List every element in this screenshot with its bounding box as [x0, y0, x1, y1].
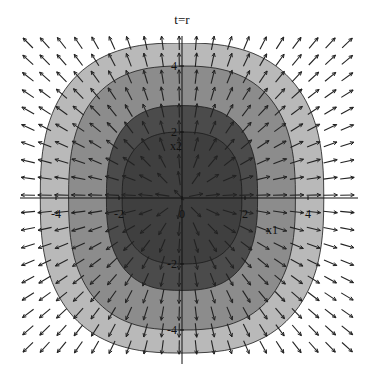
- vector-arrow: [325, 309, 336, 318]
- vector-arrow: [57, 342, 66, 353]
- vector-arrow: [309, 38, 318, 49]
- vector-arrow: [292, 325, 301, 336]
- vector-arrow: [22, 309, 33, 317]
- plot-title: t=r: [174, 12, 190, 27]
- vector-arrow: [341, 293, 353, 300]
- vector-arrow: [57, 38, 66, 49]
- x-axis-label: x1: [266, 223, 278, 237]
- vector-arrow: [57, 55, 66, 66]
- vector-arrow: [74, 54, 82, 65]
- vector-arrow: [22, 90, 34, 98]
- vector-arrow: [57, 309, 67, 319]
- vector-arrow: [40, 342, 49, 352]
- vector-arrow: [40, 325, 50, 335]
- vector-arrow: [179, 256, 180, 270]
- vector-arrow: [325, 72, 336, 81]
- vector-arrow: [293, 342, 302, 353]
- y-tick-label: -4: [167, 323, 177, 337]
- vector-arrow: [293, 37, 301, 48]
- vector-arrow: [75, 37, 83, 49]
- vector-arrow: [325, 55, 335, 65]
- vector-arrow: [308, 309, 319, 318]
- vector-arrow: [23, 38, 33, 48]
- vector-arrow: [341, 90, 353, 97]
- vector-arrow: [40, 38, 49, 48]
- vector-arrow: [292, 72, 302, 82]
- x-tick-label: 4: [305, 207, 311, 221]
- vector-arrow: [342, 55, 353, 64]
- vector-arrow: [179, 121, 180, 135]
- x-tick-label: -4: [51, 207, 61, 221]
- vector-arrow: [308, 292, 319, 300]
- vector-arrow: [325, 326, 335, 335]
- vector-arrow: [39, 309, 50, 318]
- x-tick-label: 2: [242, 207, 248, 221]
- vector-arrow: [276, 341, 284, 353]
- vector-arrow: [325, 293, 337, 301]
- y-axis-label: x2: [170, 139, 182, 153]
- vector-arrow: [39, 107, 51, 115]
- vector-arrow: [309, 55, 319, 65]
- x-tick-label: 0: [179, 207, 185, 221]
- vector-arrow: [276, 54, 284, 65]
- vector-arrow: [342, 73, 353, 81]
- vector-arrow: [292, 55, 301, 66]
- vector-arrow: [40, 55, 50, 65]
- vector-arrow: [342, 343, 352, 352]
- vector-arrow: [276, 37, 283, 49]
- vector-arrow: [342, 38, 352, 48]
- vector-arrow: [342, 326, 353, 335]
- vector-arrow: [40, 72, 50, 81]
- vector-arrow: [105, 195, 119, 196]
- vector-arrow: [23, 326, 34, 335]
- y-tick-label: 4: [171, 59, 177, 73]
- vector-arrow: [74, 342, 82, 353]
- vector-arrow: [39, 90, 50, 98]
- vector-arrow: [309, 72, 319, 81]
- x-tick-label: -2: [114, 207, 124, 221]
- vector-arrow: [309, 325, 319, 335]
- vector-arrow: [39, 276, 51, 283]
- vector-arrow: [22, 293, 34, 301]
- vector-arrow: [326, 38, 336, 48]
- y-tick-label: -2: [167, 257, 177, 271]
- vector-arrow: [325, 90, 336, 98]
- vector-arrow: [326, 342, 336, 352]
- vector-arrow: [74, 325, 83, 336]
- y-tick-label: 2: [171, 125, 177, 139]
- vector-arrow: [23, 73, 34, 82]
- vector-arrow: [39, 292, 50, 300]
- vector-arrow: [23, 342, 33, 352]
- vector-arrow: [342, 309, 353, 317]
- vector-arrow: [23, 55, 33, 64]
- vector-arrow: [308, 89, 319, 98]
- vector-arrow: [239, 195, 253, 196]
- contour-vector-plot: t=r -4-202442-2-4 x1 x2: [0, 0, 376, 385]
- vector-arrow: [57, 72, 67, 82]
- vector-arrow: [309, 342, 318, 352]
- vector-arrow: [57, 325, 66, 335]
